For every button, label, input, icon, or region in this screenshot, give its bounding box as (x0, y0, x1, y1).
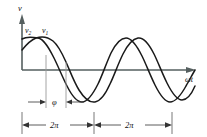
waveform-svg: v ωt v2 v1 (0, 0, 207, 137)
period-2-arrowhead-left (94, 122, 101, 127)
curve-labels-group: v2 v1 (25, 26, 49, 36)
curve-label-v2-subscript: 2 (29, 30, 32, 36)
period-1-label: 2π (50, 120, 59, 130)
period-1-arrowhead-left (22, 122, 29, 127)
vertical-axis-arrowhead (19, 14, 25, 24)
phase-arrowhead-left (40, 100, 46, 105)
vertical-axis-label: v (18, 3, 22, 13)
period-2-arrowhead-right (165, 122, 172, 127)
waveform-figure: v ωt v2 v1 (0, 0, 207, 137)
period-2-label: 2π (125, 120, 134, 130)
curve-label-v1-subscript: 1 (46, 30, 49, 36)
curve-label-v1: v1 (42, 26, 49, 36)
phase-label: φ (52, 97, 57, 107)
period-1-arrowhead-right (87, 122, 94, 127)
phase-arrowhead-right (66, 100, 72, 105)
period-dimensions-group: 2π 2π (22, 112, 172, 134)
curve-label-v2: v2 (25, 26, 32, 36)
